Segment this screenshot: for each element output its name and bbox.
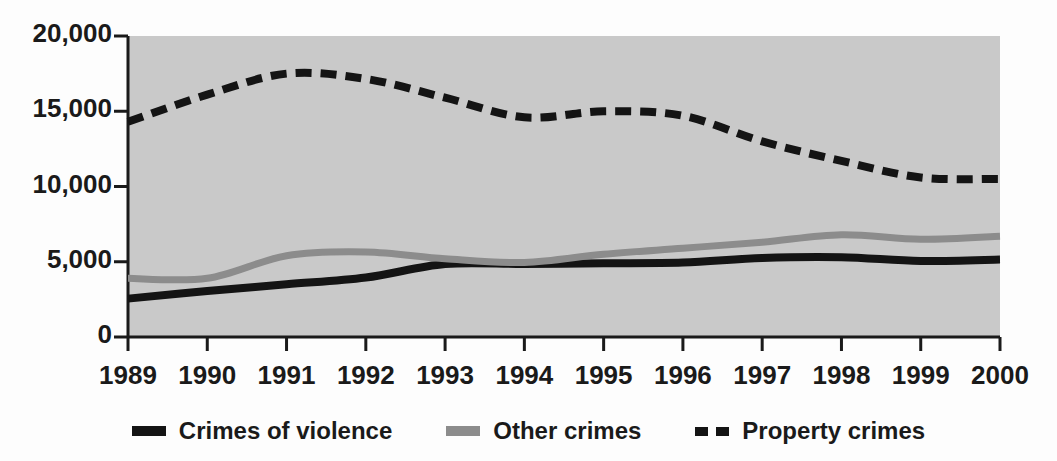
y-tick-label: 15,000 bbox=[32, 95, 112, 121]
solid-dark-line-icon bbox=[132, 426, 166, 436]
legend-entry[interactable]: Property crimes bbox=[695, 417, 925, 445]
line-chart-figure: 05,00010,00015,00020,000 198919901991199… bbox=[0, 0, 1057, 461]
plot-area-svg bbox=[0, 0, 1057, 461]
y-axis-ticks bbox=[114, 36, 128, 337]
legend-label: Property crimes bbox=[742, 417, 925, 445]
x-tick-label: 1995 bbox=[575, 360, 633, 391]
x-tick-label: 1991 bbox=[258, 360, 316, 391]
x-tick-label: 1994 bbox=[495, 360, 553, 391]
y-tick-label: 10,000 bbox=[32, 171, 112, 197]
legend-label: Other crimes bbox=[493, 417, 641, 445]
legend-label: Crimes of violence bbox=[179, 417, 392, 445]
y-tick-label: 20,000 bbox=[32, 20, 112, 46]
x-axis-ticks bbox=[128, 337, 1000, 351]
x-tick-label: 1989 bbox=[99, 360, 157, 391]
x-tick-label: 1998 bbox=[813, 360, 871, 391]
x-tick-label: 1997 bbox=[733, 360, 791, 391]
chart-legend: Crimes of violenceOther crimesProperty c… bbox=[0, 408, 1057, 454]
x-tick-label: 2000 bbox=[971, 360, 1029, 391]
x-tick-label: 1996 bbox=[654, 360, 712, 391]
y-axis-tick-labels: 05,00010,00015,00020,000 bbox=[0, 0, 112, 461]
y-tick-label: 5,000 bbox=[47, 246, 112, 272]
x-tick-label: 1990 bbox=[178, 360, 236, 391]
solid-gray-line-icon bbox=[446, 426, 480, 436]
x-tick-label: 1993 bbox=[416, 360, 474, 391]
dashed-dark-line-icon bbox=[695, 427, 729, 436]
legend-entry[interactable]: Crimes of violence bbox=[132, 417, 392, 445]
legend-entry[interactable]: Other crimes bbox=[446, 417, 641, 445]
y-tick-label: 0 bbox=[98, 321, 112, 347]
x-tick-label: 1992 bbox=[337, 360, 395, 391]
x-tick-label: 1999 bbox=[892, 360, 950, 391]
